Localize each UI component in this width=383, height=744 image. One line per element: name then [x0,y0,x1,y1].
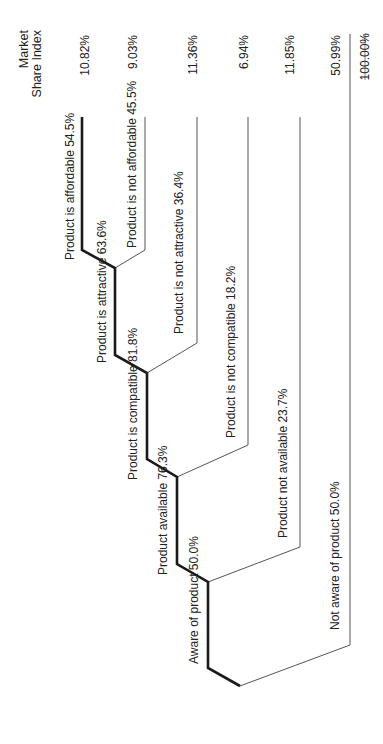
label-available: Product available 76.3% [156,445,170,575]
label-not-affordable: Product is not affordable 45.5% [125,80,139,248]
index-not-affordable: 9.03% [126,35,140,69]
main-success-path [82,117,240,686]
label-attractive: Product is attractive 63.6% [95,220,109,363]
label-not-attractive: Product is not attractive 36.4% [172,171,186,334]
label-affordable: Product is affordable 54.5% [63,112,77,260]
index-not-attractive: 11.36% [186,35,200,75]
market-share-tree-diagram: Market Share Index 10.82% 9.03% 11.36% 6… [0,0,383,744]
header-line2: Share Index [30,29,44,97]
label-compatible: Product is compatible 81.8% [126,328,140,480]
index-total: 100.00% [358,33,372,81]
index-not-compatible: 6.94% [237,35,251,69]
index-final: 10.82% [78,35,92,76]
index-not-aware: 50.99% [329,35,343,76]
label-not-aware: Not aware of product 50.0% [328,481,342,630]
label-not-compatible: Product is not compatible 18.2% [224,266,238,438]
index-not-available: 11.85% [283,35,297,75]
label-aware: Aware of product 50.0% [187,536,201,664]
header-line1: Market [17,29,31,68]
label-not-available: Product not available 23.7% [276,388,290,538]
